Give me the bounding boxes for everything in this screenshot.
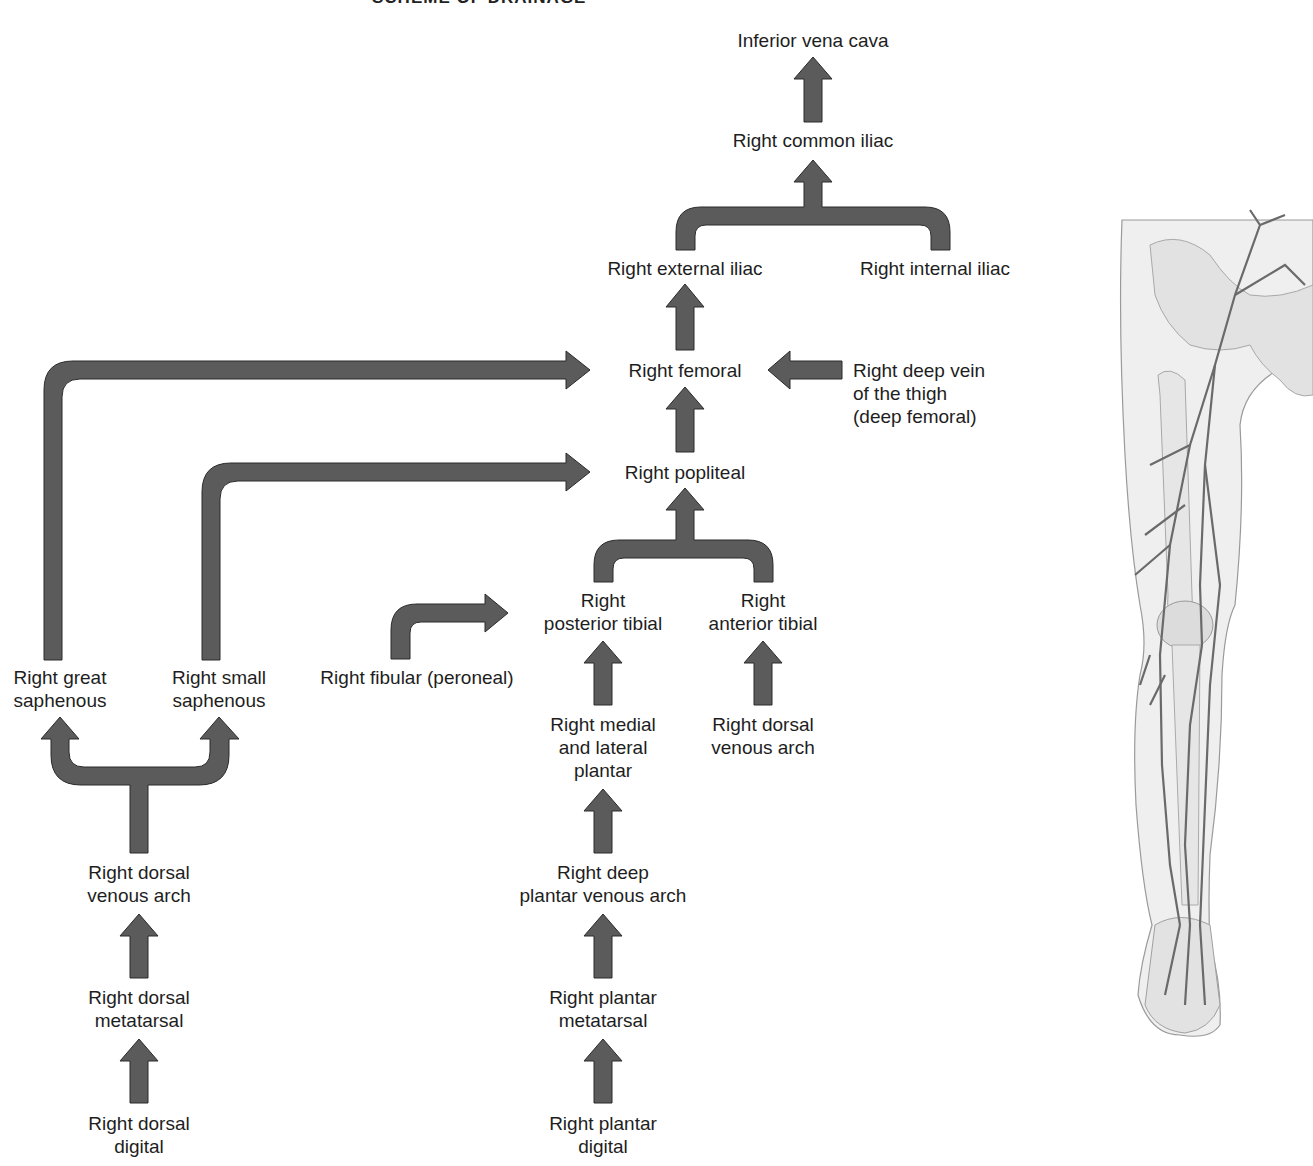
label-line: plantar <box>550 759 656 782</box>
arrow-up-icon <box>666 284 704 350</box>
label-line: Right dorsal <box>87 861 191 884</box>
node-right-dorsal-venous-arch-deep: Right dorsal venous arch <box>711 713 815 759</box>
label-line: of the thigh <box>853 382 985 405</box>
node-right-deep-vein-thigh: Right deep vein of the thigh (deep femor… <box>853 359 985 428</box>
knee-icon <box>1157 601 1213 649</box>
label-line: plantar venous arch <box>520 884 687 907</box>
label-line: metatarsal <box>88 1009 189 1032</box>
node-right-posterior-tibial: Right posterior tibial <box>544 589 662 635</box>
node-right-deep-plantar-venous-arch: Right deep plantar venous arch <box>520 861 687 907</box>
node-right-plantar-digital: Right plantar digital <box>549 1112 657 1158</box>
label-line: Right dorsal <box>88 1112 189 1135</box>
label-line: Right medial <box>550 713 656 736</box>
node-right-anterior-tibial: Right anterior tibial <box>709 589 818 635</box>
label-line: anterior tibial <box>709 612 818 635</box>
node-right-fibular: Right fibular (peroneal) <box>320 666 513 689</box>
arrow-up-icon <box>584 789 622 853</box>
arrow-up-icon <box>584 1039 622 1103</box>
label-line: posterior tibial <box>544 612 662 635</box>
label-line: venous arch <box>87 884 191 907</box>
label-line: Right deep <box>520 861 687 884</box>
fork-arrow-icon <box>41 717 239 853</box>
node-right-dorsal-metatarsal: Right dorsal metatarsal <box>88 986 189 1032</box>
foot-icon <box>1145 918 1220 1034</box>
node-right-femoral: Right femoral <box>629 359 742 382</box>
arrow-up-icon <box>584 641 622 705</box>
label-line: saphenous <box>172 689 266 712</box>
arrow-up-icon <box>120 914 158 978</box>
bent-arrow-icon <box>391 594 508 659</box>
node-right-plantar-metatarsal: Right plantar metatarsal <box>549 986 657 1032</box>
node-right-internal-iliac: Right internal iliac <box>860 257 1010 280</box>
arrow-up-icon <box>794 57 832 122</box>
label-line: venous arch <box>711 736 815 759</box>
label-line: digital <box>88 1135 189 1158</box>
node-right-small-saphenous: Right small saphenous <box>172 666 266 712</box>
label-line: Right plantar <box>549 986 657 1009</box>
node-right-great-saphenous: Right great saphenous <box>14 666 107 712</box>
bent-arrow-icon <box>44 351 590 660</box>
label-line: Right small <box>172 666 266 689</box>
arrow-up-icon <box>584 914 622 978</box>
node-inferior-vena-cava: Inferior vena cava <box>737 29 888 52</box>
arrow-up-icon <box>120 1039 158 1103</box>
arrow-up-icon <box>744 641 782 705</box>
label-line: metatarsal <box>549 1009 657 1032</box>
arrow-left-icon <box>768 351 842 389</box>
label-line: Right deep vein <box>853 359 985 382</box>
label-line: Right plantar <box>549 1112 657 1135</box>
node-right-common-iliac: Right common iliac <box>733 129 894 152</box>
label-line: saphenous <box>14 689 107 712</box>
label-line: Right <box>709 589 818 612</box>
label-line: (deep femoral) <box>853 405 985 428</box>
label-line: Right dorsal <box>711 713 815 736</box>
arrow-up-icon <box>666 387 704 452</box>
merge-arrow-icon <box>676 160 950 250</box>
label-line: Right great <box>14 666 107 689</box>
node-right-medial-lateral-plantar: Right medial and lateral plantar <box>550 713 656 782</box>
node-right-external-iliac: Right external iliac <box>607 257 762 280</box>
node-right-dorsal-venous-arch-superficial: Right dorsal venous arch <box>87 861 191 907</box>
label-line: digital <box>549 1135 657 1158</box>
leg-vein-illustration <box>1110 205 1313 1050</box>
node-right-popliteal: Right popliteal <box>625 461 745 484</box>
label-line: and lateral <box>550 736 656 759</box>
label-line: Right <box>544 589 662 612</box>
node-right-dorsal-digital: Right dorsal digital <box>88 1112 189 1158</box>
label-line: Right dorsal <box>88 986 189 1009</box>
merge-arrow-icon <box>594 488 773 582</box>
